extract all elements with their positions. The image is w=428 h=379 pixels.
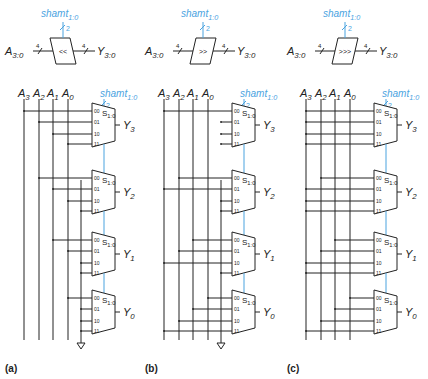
junction-dot: [305, 188, 307, 190]
mux-pin-label: 10: [94, 318, 100, 324]
junction-dot: [80, 272, 82, 274]
junction-dot: [220, 200, 222, 202]
junction-dot: [305, 121, 307, 123]
output-bus-label: Y3:0: [97, 45, 116, 60]
input-bus-width: 4: [176, 43, 180, 49]
mux-pin-label: 11: [376, 141, 381, 147]
junction-dot: [178, 177, 180, 179]
mux-pin-label: 10: [234, 198, 240, 204]
junction-dot: [207, 297, 209, 299]
junction-dot: [320, 320, 322, 322]
junction-dot: [80, 308, 82, 310]
junction-dot: [320, 250, 322, 252]
mux-pin-label: 11: [94, 208, 99, 214]
mux-shamt-label: shamt1:0: [382, 88, 419, 102]
mux-pin-label: 11: [376, 270, 381, 276]
mux-output-label: Y2: [263, 186, 275, 201]
panel-caption: (a): [5, 363, 17, 374]
panel-b: >>A3:044Y3:0shamt1:02A3A2A1A0shamt1:02S1…: [144, 8, 277, 374]
shifter-diagram: <<A3:044Y3:0shamt1:02A3A2A1A0shamt1:02S1…: [0, 0, 428, 379]
mux-y3: S1:0Y300011011: [23, 103, 135, 173]
mux-pin-label: 11: [94, 141, 99, 147]
mux-pin-label: 01: [234, 119, 240, 125]
mux-pin-label: 00: [234, 175, 240, 181]
junction-dot: [80, 330, 82, 332]
mux-pin-label: 11: [94, 328, 99, 334]
mux-pin-label: 00: [376, 108, 382, 114]
input-bus-label: A3:0: [144, 45, 164, 60]
input-bus-width: 4: [318, 43, 322, 49]
shamt-label: shamt1:0: [181, 8, 218, 22]
mux-pin-label: 01: [376, 186, 382, 192]
mux-pin-label: 10: [234, 260, 240, 266]
mux-pin-label: 00: [376, 175, 382, 181]
mux-pin-label: 10: [376, 131, 382, 137]
mux-pin-label: 00: [94, 295, 100, 301]
junction-dot: [334, 308, 336, 310]
junction-dot: [178, 320, 180, 322]
mux-output-label: Y3: [123, 119, 135, 134]
ground-icon: [77, 343, 85, 349]
mux-pin-label: 01: [376, 248, 382, 254]
mux-pin-label: 11: [234, 141, 239, 147]
junction-dot: [67, 143, 69, 145]
mux-pin-label: 01: [94, 119, 100, 125]
output-bus-width: 4: [364, 43, 368, 49]
input-label-a1: A1: [46, 87, 59, 102]
junction-dot: [38, 121, 40, 123]
input-label-a1: A1: [186, 87, 199, 102]
mux-output-label: Y1: [405, 248, 417, 263]
shift-operator: >>: [199, 48, 207, 55]
junction-dot: [220, 272, 222, 274]
junction-dot: [192, 239, 194, 241]
mux-y3: S1:0Y300011011: [305, 103, 417, 173]
junction-dot: [305, 133, 307, 135]
panel-caption: (c): [287, 363, 299, 374]
output-bus-label: Y3:0: [237, 45, 256, 60]
mux-y3: S1:0Y300011011: [163, 103, 275, 173]
mux-pin-label: 00: [94, 108, 100, 114]
mux-y0: S1:0Y000011011: [67, 290, 135, 334]
shamt-width: 2: [66, 25, 70, 32]
junction-dot: [305, 210, 307, 212]
mux-pin-label: 00: [376, 295, 382, 301]
junction-dot: [67, 250, 69, 252]
output-bus-width: 4: [222, 43, 226, 49]
mux-pin-label: 10: [376, 198, 382, 204]
mux-pin-label: 01: [94, 248, 100, 254]
junction-dot: [305, 110, 307, 112]
mux-pin-label: 11: [376, 208, 381, 214]
mux-pin-label: 01: [234, 186, 240, 192]
junction-dot: [320, 177, 322, 179]
mux-output-label: Y1: [123, 248, 135, 263]
shifter-symbol: >>>A3:044Y3:0shamt1:02: [286, 8, 398, 64]
input-bus-width: 4: [36, 43, 40, 49]
panel-c: >>>A3:044Y3:0shamt1:02A3A2A1A0shamt1:02S…: [286, 8, 419, 374]
junction-dot: [305, 143, 307, 145]
junction-dot: [220, 210, 222, 212]
junction-dot: [52, 133, 54, 135]
mux-shamt-label: shamt1:0: [100, 88, 137, 102]
junction-dot: [52, 188, 54, 190]
junction-dot: [23, 110, 25, 112]
junction-dot: [192, 308, 194, 310]
junction-dot: [305, 262, 307, 264]
junction-dot: [163, 330, 165, 332]
mux-pin-label: 10: [376, 318, 382, 324]
mux-pin-label: 00: [376, 237, 382, 243]
junction-dot: [67, 200, 69, 202]
output-bus-width: 4: [82, 43, 86, 49]
junction-dot: [305, 200, 307, 202]
junction-dot: [220, 121, 222, 123]
junction-dot: [305, 330, 307, 332]
junction-dot: [163, 262, 165, 264]
panel-caption: (b): [145, 363, 158, 374]
mux-y2: S1:0Y200011011: [305, 170, 417, 235]
mux-pin-label: 10: [376, 260, 382, 266]
junction-dot: [80, 210, 82, 212]
mux-pin-label: 10: [94, 260, 100, 266]
mux-output-label: Y2: [123, 186, 135, 201]
shifter-symbol: <<A3:044Y3:0shamt1:02: [4, 8, 116, 64]
mux-y0: S1:0Y000011011: [163, 290, 275, 334]
input-bus-label: A3:0: [286, 45, 306, 60]
